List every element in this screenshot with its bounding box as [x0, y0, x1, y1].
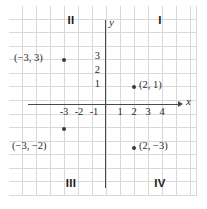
plotted-point-label: (2, 1): [139, 79, 162, 90]
x-tick-pos2: 2: [127, 106, 141, 117]
grid-border-right: [196, 6, 197, 196]
plotted-point-label: (−3, 3): [14, 52, 43, 63]
x-tick-pos1: 1: [113, 106, 127, 117]
grid-border-bottom: [9, 195, 197, 196]
y-tick-pos1: 1: [88, 78, 100, 89]
x-tick-neg3: -3: [57, 106, 71, 117]
plotted-point-dot: [132, 146, 136, 150]
y-tick-pos3: 3: [88, 50, 100, 61]
plotted-point-label: (2, −3): [139, 140, 168, 151]
x-axis-label: x: [186, 95, 191, 107]
y-axis-label: y: [109, 16, 114, 28]
plotted-point-dot: [62, 58, 66, 62]
y-tick-pos2: 2: [88, 64, 100, 75]
plotted-point-label: (−3, −2): [12, 140, 47, 151]
plotted-point-dot: [62, 127, 66, 131]
x-tick-pos4: 4: [155, 106, 169, 117]
x-tick-pos3: 3: [141, 106, 155, 117]
x-axis-arrow-icon: [178, 101, 183, 107]
quadrant-label-iii: III: [61, 177, 81, 189]
quadrant-label-ii: II: [61, 14, 81, 26]
quadrant-label-i: I: [150, 14, 170, 26]
coordinate-plane-figure: x y -3 -2 -1 1 2 3 4 3 2 1 I II III IV (…: [0, 0, 207, 209]
y-axis-line: [105, 20, 106, 188]
plotted-point-dot: [132, 85, 136, 89]
x-tick-neg1: -1: [87, 106, 101, 117]
quadrant-label-iv: IV: [150, 177, 170, 189]
grid-background: [9, 6, 197, 196]
x-tick-neg2: -2: [72, 106, 86, 117]
